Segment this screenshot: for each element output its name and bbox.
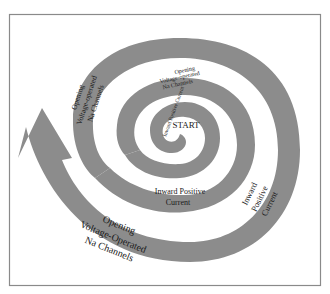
svg-text:Current: Current (166, 198, 191, 207)
diagram-canvas: START Inward Positive Current Opening Vo… (0, 0, 330, 294)
start-label: START (172, 120, 200, 130)
svg-text:Inward Positive: Inward Positive (155, 187, 206, 196)
spiral-band (18, 38, 300, 262)
